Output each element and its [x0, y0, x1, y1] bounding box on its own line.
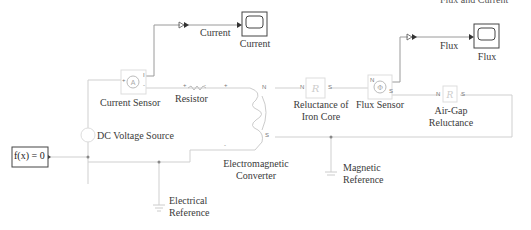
- port-flux-sensor-n: N: [370, 77, 374, 84]
- signal-flux-ps: [392, 37, 408, 82]
- port-current-sensor-minus: -: [143, 82, 145, 89]
- resistor-label: Resistor: [175, 93, 208, 105]
- signal-label-flux: Flux: [440, 40, 458, 52]
- svg-text:R: R: [446, 90, 454, 100]
- port-converter-s: S: [265, 132, 269, 139]
- svg-text:A: A: [131, 79, 136, 86]
- iron-core-label-2: Iron Core: [285, 111, 357, 123]
- signal-connections: [146, 25, 472, 82]
- converter-label-2: Converter: [214, 170, 298, 182]
- port-converter-n: N: [262, 84, 266, 91]
- converter-label-1: Electromagnetic: [214, 158, 298, 170]
- port-resistor-plus: +: [183, 82, 187, 89]
- air-gap-label-2: Reluctance: [420, 117, 482, 129]
- dc-source-label: DC Voltage Source: [97, 130, 174, 142]
- port-flux-sensor-s: S: [389, 88, 393, 95]
- port-air-gap-n: N: [436, 91, 440, 98]
- flux-sensor-label: Flux Sensor: [350, 99, 410, 111]
- mag-ref-label-2: Reference: [343, 174, 384, 186]
- port-current-sensor-out: I: [143, 72, 145, 79]
- electrical-ground-icon: [153, 205, 165, 211]
- port-resistor-minus: -: [204, 82, 206, 89]
- air-gap-reluctance-block[interactable]: R: [443, 86, 457, 102]
- port-converter-plus: +: [224, 82, 228, 89]
- scope-current-label: Current: [234, 38, 276, 50]
- port-iron-core-n: N: [300, 84, 304, 91]
- solver-block-label: f(x) = 0: [14, 150, 45, 162]
- elec-ref-label-2: Reference: [169, 207, 210, 219]
- port-iron-core-s: S: [328, 84, 332, 91]
- mag-ref-label-1: Magnetic: [343, 162, 381, 174]
- air-gap-label-1: Air-Gap: [420, 105, 482, 117]
- signal-label-current: Current: [200, 27, 231, 39]
- port-air-gap-s: S: [461, 91, 465, 98]
- svg-text:R: R: [311, 83, 320, 94]
- current-sensor-label: Current Sensor: [100, 97, 160, 109]
- signal-current-ps: [146, 25, 180, 76]
- dc-source-block[interactable]: [81, 128, 95, 142]
- svg-text:Φ: Φ: [377, 84, 383, 92]
- diagram-canvas: A R Φ: [0, 0, 531, 230]
- scope-flux-label: Flux: [470, 51, 504, 63]
- port-converter-minus: -: [224, 142, 226, 149]
- truncated-title: Flux and Current: [440, 0, 508, 5]
- scope-flux-block[interactable]: [474, 24, 499, 48]
- converter-block[interactable]: [250, 88, 266, 150]
- port-current-sensor-plus: +: [122, 77, 126, 84]
- iron-core-reluctance-block[interactable]: R: [306, 78, 325, 98]
- elec-ref-label-1: Electrical: [169, 195, 207, 207]
- iron-core-label-1: Reluctance of: [285, 99, 357, 111]
- magnetic-ground-icon: [325, 172, 337, 175]
- scope-current-block[interactable]: [242, 12, 267, 36]
